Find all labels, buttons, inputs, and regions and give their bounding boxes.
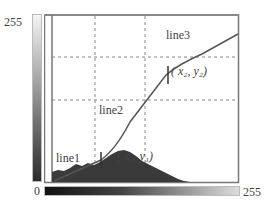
line3-label: line3 bbox=[166, 29, 190, 41]
point1-label: ( x₁, y₁) bbox=[117, 150, 153, 162]
x-min-label: 0 bbox=[34, 185, 40, 197]
line2-label: line2 bbox=[99, 104, 123, 116]
line1-label: line1 bbox=[56, 152, 80, 164]
horizontal-gray-gradient-bar bbox=[44, 186, 240, 196]
vertical-gray-gradient-bar bbox=[32, 14, 42, 182]
x-max-label: 255 bbox=[243, 186, 261, 198]
y-max-label: 255 bbox=[4, 16, 22, 28]
point2-label: ( x₂, y₂) bbox=[171, 65, 207, 77]
